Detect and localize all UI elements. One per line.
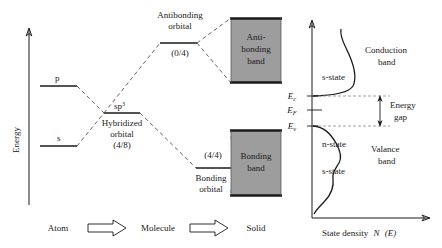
stage-arrow-2 — [190, 220, 228, 236]
antibonding-band-line2: bonding — [241, 44, 271, 54]
left-panel: Energy p s sp3 Hybridized orbital (4/8) … — [11, 10, 282, 236]
antibonding-band-line3: band — [247, 56, 265, 66]
right-panel: Ec EF Ev Energy gap Conduction band s-st… — [286, 20, 430, 238]
bonding-orbital-line2: orbital — [199, 184, 223, 194]
antibonding-band-line1: Anti- — [247, 32, 266, 42]
conduction-band-line1: Conduction — [365, 45, 407, 55]
connector-antibonding-to-band-top — [197, 18, 231, 43]
antibonding-orbital-line1: Antibonding — [157, 10, 203, 20]
dos-density-axis — [312, 215, 430, 221]
hybrid-occupancy: (4/8) — [113, 140, 131, 150]
antibonding-orbital-line2: orbital — [168, 21, 192, 31]
antibonding-orbital-occupancy: (0/4) — [171, 48, 189, 58]
energy-gap-line1: Energy — [390, 100, 416, 110]
level-ef-label: EF — [286, 105, 298, 116]
connector-p-to-hybrid — [77, 86, 104, 113]
valance-band-line2: band — [378, 156, 396, 166]
level-ev-label: Ev — [287, 121, 297, 132]
figure-container: Energy p s sp3 Hybridized orbital (4/8) … — [0, 0, 442, 248]
bonding-band-line1: Bonding — [240, 151, 272, 161]
level-s-label: s — [57, 133, 61, 143]
valance-band-line1: Valance — [371, 144, 399, 154]
level-markers — [307, 96, 390, 126]
s-state-lower-label: s-state — [322, 166, 345, 176]
hybrid-name-line2: orbital — [110, 129, 134, 139]
level-ec-label: Ec — [287, 91, 297, 102]
energy-gap-arrow — [377, 95, 382, 127]
hybrid-name-line1: Hybridized — [102, 118, 143, 128]
stage-label-atom: Atom — [48, 223, 69, 233]
stage-label-solid: Solid — [246, 223, 266, 233]
connector-hybrid-to-bonding — [140, 113, 196, 168]
connector-hybrid-to-antibonding — [104, 43, 160, 113]
energy-gap-line2: gap — [394, 112, 407, 122]
level-p-label: p — [55, 73, 60, 83]
bonding-band-line2: band — [247, 163, 265, 173]
n-state-label: n-state — [322, 139, 346, 149]
hybrid-sp3-label: sp3 — [114, 101, 125, 111]
stage-label-molecule: Molecule — [141, 223, 175, 233]
bonding-orbital-occupancy: (4/4) — [204, 150, 222, 160]
conduction-band-curve — [313, 29, 355, 96]
energy-axis — [26, 28, 32, 205]
y-axis-label: Energy — [11, 127, 21, 153]
dos-energy-axis — [309, 20, 315, 218]
conduction-band-line2: band — [378, 57, 396, 67]
s-state-upper-label: s-state — [322, 72, 345, 82]
dos-x-axis-label: State density N (E) — [322, 228, 396, 238]
connector-antibonding-to-band-bottom — [197, 43, 231, 83]
connector-s-to-hybrid — [77, 113, 104, 146]
stage-arrow-1 — [88, 220, 126, 236]
bonding-orbital-line1: Bonding — [195, 173, 227, 183]
